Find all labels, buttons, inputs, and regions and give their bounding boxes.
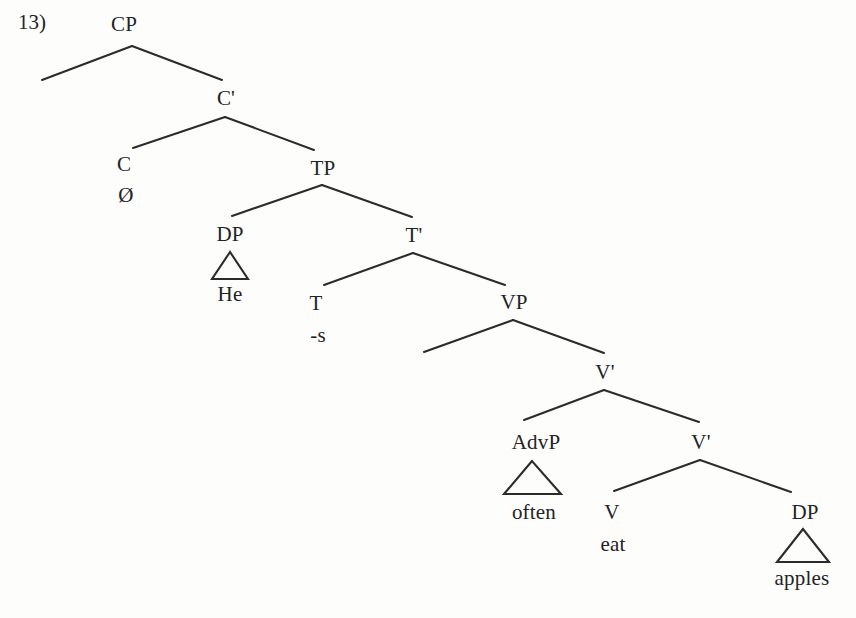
- branch-cp-cbar: [132, 46, 222, 80]
- tree-branches: [0, 0, 856, 618]
- branch-tp-dp: [232, 185, 322, 216]
- branch-vp-vbar: [513, 320, 604, 353]
- branch-vbar2-dp: [700, 460, 791, 492]
- node-tp: TP: [311, 158, 336, 179]
- terminal-often: often: [512, 502, 556, 523]
- node-vbar-upper: V': [595, 362, 614, 383]
- branch-cbar-tp: [225, 117, 314, 150]
- terminal-s-suffix: -s: [310, 325, 326, 346]
- node-c: C: [117, 154, 131, 175]
- node-dp-object: DP: [791, 502, 818, 523]
- node-vbar-lower: V': [691, 432, 710, 453]
- figure-number: 13): [18, 12, 46, 33]
- node-tbar: T': [405, 225, 422, 246]
- branch-vp-left: [424, 320, 513, 352]
- branch-cbar-c: [133, 117, 225, 148]
- branch-vbar2-v: [614, 460, 700, 491]
- branch-tbar-vp: [413, 253, 505, 285]
- node-dp-subject: DP: [216, 224, 243, 245]
- terminal-apples: apples: [775, 568, 830, 589]
- syntax-tree-figure: 13) CP C' C Ø TP DP He T' T -s VP V' Adv…: [0, 0, 856, 618]
- branch-vbar1-vbar2: [604, 390, 699, 422]
- node-advp: AdvP: [512, 432, 561, 453]
- branch-vbar1-advp: [524, 390, 604, 420]
- terminal-eat: eat: [600, 534, 625, 555]
- branch-tp-tbar: [322, 185, 412, 217]
- branch-tbar-t: [324, 253, 413, 285]
- node-cbar: C': [217, 88, 235, 109]
- branch-cp-left: [42, 46, 132, 80]
- triangle-advp: [504, 461, 561, 494]
- terminal-c-null: Ø: [118, 185, 133, 206]
- triangle-dp-object: [777, 529, 829, 562]
- node-cp: CP: [111, 14, 137, 35]
- node-t: T: [309, 293, 322, 314]
- terminal-he: He: [218, 284, 243, 305]
- triangle-dp-subject: [212, 252, 248, 279]
- node-vp: VP: [500, 292, 527, 313]
- node-v: V: [604, 502, 619, 523]
